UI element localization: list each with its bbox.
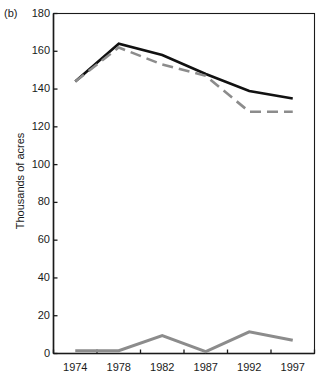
line-chart-plot xyxy=(0,0,326,379)
series-idle-solid-gray xyxy=(75,332,293,352)
data-series-layer xyxy=(75,44,293,352)
figure-panel-b: (b) Thousands of acres 02040608010012014… xyxy=(0,0,326,379)
series-harvested-dashed-gray xyxy=(75,48,293,112)
